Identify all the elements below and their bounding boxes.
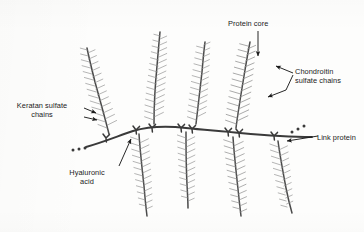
label-chondroitin-sulfate-chains: Chondroitin sulfate chains — [295, 67, 363, 86]
branch-down-3 — [224, 137, 247, 216]
figure-canvas: Keratan sulfate chains Hyaluronic acid P… — [0, 0, 364, 232]
chondroitin-arrow-upper — [276, 66, 293, 73]
ellipsis-left — [72, 147, 87, 152]
branch-up-4 — [226, 42, 256, 128]
ellipsis-right — [291, 125, 306, 134]
branch-down-4 — [270, 141, 293, 213]
label-protein-core: Protein core — [228, 19, 300, 28]
branch-up-2 — [145, 32, 167, 124]
branch-up-3 — [187, 42, 210, 124]
chondroitin-arrow-lower — [268, 75, 293, 97]
keratan-arrow-lower — [84, 117, 97, 120]
annotation-arrows — [84, 31, 318, 166]
branch-down-1 — [131, 134, 153, 216]
branch-up-1 — [80, 48, 116, 134]
branch-down-2 — [177, 132, 195, 208]
hyaluronic-arrow — [119, 139, 131, 166]
label-hyaluronic-acid: Hyaluronic acid — [56, 168, 118, 187]
keratan-arrow-upper — [84, 108, 96, 113]
label-link-protein: Link protein — [317, 133, 364, 142]
label-keratan-sulfate-chains: Keratan sulfate chains — [4, 101, 80, 120]
